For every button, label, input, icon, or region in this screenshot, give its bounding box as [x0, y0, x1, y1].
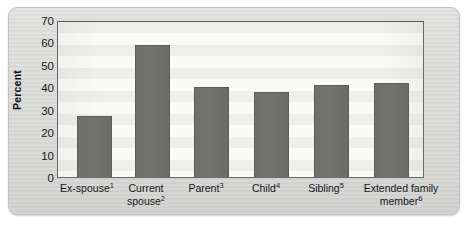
plot-area [57, 21, 424, 178]
x-label-extended-family-member: Extended family member6 [346, 182, 456, 207]
x-label-extended-family-member-line2: member [380, 195, 419, 207]
x-label-sibling-footnote: 5 [340, 181, 344, 190]
y-tick-60: 60 [20, 38, 54, 48]
x-label-sibling-text: Sibling [308, 182, 340, 194]
bar-ex-spouse [77, 116, 112, 177]
x-label-current-spouse-line2: spouse [127, 195, 161, 207]
bar-current-spouse [135, 45, 170, 177]
bar-chart: Percent 70 60 50 40 30 20 10 0 Ex-spouse… [0, 0, 468, 226]
x-label-extended-family-member-line1: Extended family [364, 182, 439, 194]
y-tick-20: 20 [20, 128, 54, 138]
bar-child [254, 92, 289, 177]
x-label-child-text: Child [252, 182, 276, 194]
x-label-current-spouse-footnote: 2 [161, 193, 165, 202]
x-label-ex-spouse-text: Ex-spouse [60, 182, 110, 194]
x-label-current-spouse-line1: Current [128, 182, 163, 194]
x-label-parent-text: Parent [188, 182, 219, 194]
y-tick-10: 10 [20, 151, 54, 161]
x-label-extended-family-member-footnote: 6 [418, 193, 422, 202]
plot-vignette [58, 22, 423, 177]
bar-sibling [314, 85, 349, 177]
y-tick-70: 70 [20, 16, 54, 26]
bar-extended-family-member [374, 83, 409, 177]
y-tick-0: 0 [20, 173, 54, 183]
bar-parent [194, 87, 229, 177]
x-label-child-footnote: 4 [276, 181, 280, 190]
y-tick-50: 50 [20, 61, 54, 71]
y-tick-30: 30 [20, 106, 54, 116]
y-axis-tick-labels: 70 60 50 40 30 20 10 0 [16, 0, 54, 226]
y-tick-40: 40 [20, 83, 54, 93]
x-label-parent-footnote: 3 [219, 181, 223, 190]
